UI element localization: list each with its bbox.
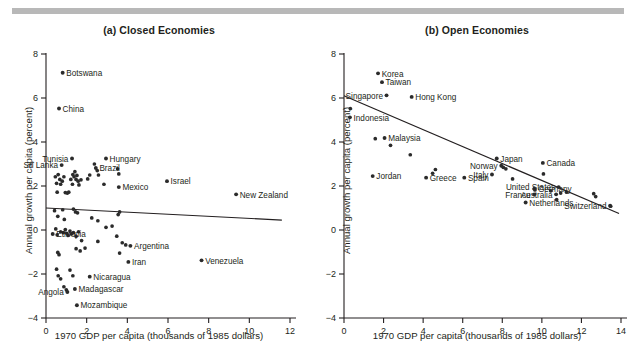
data-point bbox=[55, 190, 59, 194]
y-tick-label: 8 bbox=[331, 49, 336, 59]
data-point-labeled bbox=[57, 107, 61, 111]
data-point-labeled bbox=[75, 303, 79, 307]
data-point-labeled bbox=[117, 185, 121, 189]
data-point bbox=[62, 218, 66, 222]
y-tick-label: 6 bbox=[33, 93, 38, 103]
data-point-labeled bbox=[165, 179, 169, 183]
y-tick-label: 6 bbox=[331, 93, 336, 103]
point-label: Israel bbox=[171, 177, 191, 186]
y-tick-label: 8 bbox=[33, 49, 38, 59]
data-point bbox=[102, 182, 106, 186]
point-label: Hong Kong bbox=[415, 93, 456, 102]
data-point bbox=[115, 234, 119, 238]
data-point bbox=[75, 174, 79, 178]
data-point bbox=[79, 178, 83, 182]
data-point-labeled bbox=[348, 115, 352, 119]
data-point bbox=[56, 215, 60, 219]
point-label: Botswana bbox=[66, 69, 102, 78]
data-point-labeled bbox=[61, 71, 65, 75]
data-point bbox=[57, 253, 61, 257]
data-point-labeled bbox=[88, 275, 92, 279]
panel-a-x-axis-label: 1970 GDP per capita (thousands of 1985 d… bbox=[0, 330, 318, 341]
y-tick-label: −4 bbox=[28, 313, 38, 323]
panel-open-economies: (b) Open Economies Annual growth per cap… bbox=[318, 0, 636, 359]
y-tick-label: 4 bbox=[331, 137, 336, 147]
data-point bbox=[104, 226, 108, 230]
data-point bbox=[88, 173, 92, 177]
point-label: Canada bbox=[546, 159, 575, 168]
data-point bbox=[59, 277, 63, 281]
point-label: China bbox=[63, 105, 85, 114]
data-point bbox=[120, 241, 124, 245]
data-point bbox=[504, 167, 508, 171]
data-point bbox=[434, 168, 438, 172]
data-point-labeled bbox=[94, 166, 98, 170]
point-label: Japan bbox=[500, 155, 523, 164]
point-label: France bbox=[505, 191, 531, 200]
data-point bbox=[93, 162, 97, 166]
data-point-labeled bbox=[383, 136, 387, 140]
data-point-labeled bbox=[104, 157, 108, 161]
data-point-labeled bbox=[128, 244, 132, 248]
data-point-labeled bbox=[524, 201, 528, 205]
data-point bbox=[348, 107, 352, 111]
data-point-labeled bbox=[60, 163, 64, 167]
data-point bbox=[62, 175, 66, 179]
data-point-labeled bbox=[499, 164, 503, 168]
data-point bbox=[56, 173, 60, 177]
data-point bbox=[118, 251, 122, 255]
point-label: Korea bbox=[382, 70, 404, 79]
data-point bbox=[55, 182, 59, 186]
data-point bbox=[71, 182, 75, 186]
point-label: Mozambique bbox=[81, 301, 128, 310]
point-label: Italy bbox=[473, 171, 489, 180]
y-tick-label: −2 bbox=[28, 269, 38, 279]
y-tick-label: 2 bbox=[33, 181, 38, 191]
data-point bbox=[74, 247, 78, 251]
scatter-plot-open: −4−20246802468101214KoreaTaiwanSingapore… bbox=[318, 0, 636, 340]
data-point-labeled bbox=[371, 174, 375, 178]
point-label: Hungary bbox=[110, 155, 142, 164]
data-point bbox=[511, 177, 515, 181]
data-point bbox=[86, 177, 90, 181]
data-point bbox=[542, 172, 546, 176]
point-label: Greece bbox=[430, 174, 457, 183]
y-tick-label: −4 bbox=[326, 313, 336, 323]
data-point bbox=[110, 224, 114, 228]
data-point-labeled bbox=[410, 95, 414, 99]
data-point-labeled bbox=[424, 176, 428, 180]
point-label: Malaysia bbox=[388, 134, 421, 143]
data-point-labeled bbox=[608, 204, 612, 208]
point-label: Taiwan bbox=[386, 78, 412, 87]
data-point-labeled bbox=[385, 93, 389, 97]
point-label: Jordan bbox=[376, 172, 401, 181]
data-point-labeled bbox=[376, 71, 380, 75]
data-point bbox=[73, 170, 77, 174]
data-point bbox=[60, 179, 64, 183]
data-point-labeled bbox=[490, 173, 494, 177]
data-point-labeled bbox=[200, 258, 204, 262]
data-point bbox=[594, 195, 598, 199]
y-tick-label: 2 bbox=[331, 181, 336, 191]
data-point-labeled bbox=[234, 192, 238, 196]
data-point-labeled bbox=[126, 260, 130, 264]
data-point bbox=[77, 183, 81, 187]
data-point bbox=[53, 209, 57, 213]
y-tick-label: −2 bbox=[326, 269, 336, 279]
data-point bbox=[76, 211, 80, 215]
data-point bbox=[373, 137, 377, 141]
data-point bbox=[96, 219, 100, 223]
data-point bbox=[80, 239, 84, 243]
point-label: Madagascar bbox=[78, 285, 123, 294]
data-point-labeled bbox=[51, 232, 55, 236]
point-label: Mexico bbox=[122, 183, 148, 192]
data-point bbox=[56, 274, 60, 278]
point-label: Sri Lanka bbox=[23, 161, 58, 170]
scatter-plot-closed: −4−202468024681012BotswanaChinaTunisiaSr… bbox=[0, 0, 318, 340]
data-point-labeled bbox=[70, 157, 74, 161]
point-label: Ethiopia bbox=[56, 230, 86, 239]
data-point-labeled bbox=[532, 192, 536, 196]
data-point bbox=[83, 246, 87, 250]
point-label: Singapore bbox=[346, 92, 384, 101]
data-point-labeled bbox=[65, 290, 69, 294]
